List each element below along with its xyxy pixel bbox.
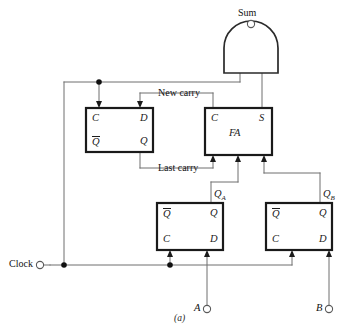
ffb-pin-qbar: Q [272,208,280,220]
b-input-label: B [316,303,322,314]
qb-label-sub: B [331,194,335,202]
qa-label: QA [214,189,226,202]
clock-terminal-circle[interactable] [36,261,43,268]
ffa-pin-qbar-text: Q [163,208,171,220]
fa-block-name: FA [229,128,240,139]
ffb-pin-qbar-text: Q [272,208,280,220]
figure-caption: (a) [174,314,185,324]
ffa-pin-d: D [210,234,218,245]
carry-ff-pin-d: D [140,113,148,124]
clock-label: Clock [9,259,33,269]
ffa-pin-q: Q [210,208,218,219]
ffa-pin-qbar: Q [163,208,171,220]
junction-top-rail [96,79,102,85]
last-carry-label: Last carry [158,163,198,173]
qa-label-sub: A [222,194,226,202]
junction-clock-riser [61,262,67,268]
sum-label: Sum [238,8,256,18]
junction-clock-ffa [167,262,173,268]
a-input-label: A [194,303,200,314]
carry-ff-pin-c: C [92,113,99,124]
and-gate-sum [224,21,278,73]
carry-ff-pin-qbar: Q [92,136,100,148]
and-gate-body [224,21,278,73]
b-terminal-circle[interactable] [325,305,332,312]
ffb-pin-q: Q [319,208,327,219]
fa-pin-s: S [259,113,264,124]
a-terminal-circle[interactable] [203,305,210,312]
ffb-pin-c: C [272,234,279,245]
ffa-pin-c: C [163,234,170,245]
new-carry-label: New carry [158,88,200,98]
circuit-diagram-figure: Sum C D Q Q C S FA Q Q C D Q Q C D New c… [0,0,354,328]
ffb-pin-d: D [319,234,327,245]
sum-terminal-circle[interactable] [247,20,254,27]
carry-ff-pin-qbar-text: Q [92,136,100,148]
qa-label-base: Q [214,188,222,199]
qb-label-base: Q [323,188,331,199]
qb-label: QB [323,189,335,202]
carry-ff-pin-q: Q [140,136,148,147]
fa-pin-c: C [211,113,218,124]
